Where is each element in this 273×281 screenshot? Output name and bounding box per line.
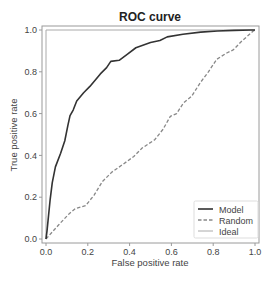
x-tick-label: 0.4 bbox=[123, 247, 136, 257]
y-axis-label: True positive rate bbox=[8, 98, 19, 171]
x-tick-label: 0.6 bbox=[165, 247, 178, 257]
y-tick-label: 0.8 bbox=[24, 67, 37, 77]
y-axis-ticks: 0.00.20.40.60.81.0 bbox=[24, 25, 42, 244]
legend-label-random: Random bbox=[219, 216, 253, 226]
chart-title: ROC curve bbox=[119, 10, 181, 24]
x-axis-ticks: 0.00.20.40.60.81.0 bbox=[40, 243, 262, 257]
x-tick-label: 1.0 bbox=[249, 247, 262, 257]
y-tick-label: 0.2 bbox=[24, 192, 37, 202]
roc-chart: ROC curve 0.00.20.40.60.81.0 0.00.20.40.… bbox=[0, 0, 273, 281]
y-tick-label: 0.0 bbox=[24, 234, 37, 244]
legend-label-ideal: Ideal bbox=[219, 227, 239, 237]
x-tick-label: 0.8 bbox=[207, 247, 220, 257]
x-tick-label: 0.0 bbox=[40, 247, 53, 257]
y-tick-label: 0.4 bbox=[24, 151, 37, 161]
legend-label-model: Model bbox=[219, 205, 244, 215]
y-tick-label: 1.0 bbox=[24, 25, 37, 35]
legend: Model Random Ideal bbox=[194, 201, 258, 238]
x-axis-label: False positive rate bbox=[111, 257, 188, 268]
y-tick-label: 0.6 bbox=[24, 109, 37, 119]
x-tick-label: 0.2 bbox=[82, 247, 95, 257]
